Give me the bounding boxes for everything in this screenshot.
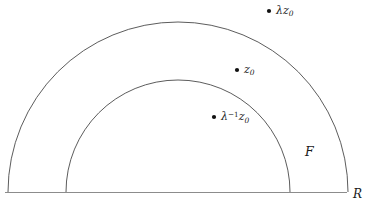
label-lambda-inverse-z0: λ−1z0: [221, 111, 249, 124]
axis-label-R: R: [353, 188, 362, 200]
figure-canvas: λz0 z0 λ−1z0 F R: [0, 0, 369, 211]
label-lambda-z0-sub: 0: [289, 9, 294, 18]
label-lambda-inverse-z0-exponent: −1: [228, 110, 239, 119]
region-label-F: F: [305, 146, 314, 159]
label-lambda-inverse-z0-sub: 0: [244, 116, 249, 125]
figure-svg: [0, 0, 369, 211]
label-lambda-z0-prefix: λ: [276, 4, 283, 17]
point-dot-lambda-inverse-z0: [212, 115, 216, 119]
label-lambda-z0: λz0: [276, 5, 294, 18]
point-dot-lambda-z0: [267, 9, 271, 13]
label-z0-sub: 0: [250, 68, 255, 77]
point-dot-z0: [235, 68, 239, 72]
inner-arc: [66, 80, 290, 192]
outer-arc: [8, 22, 348, 192]
label-lambda-inverse-z0-prefix: λ: [221, 110, 228, 123]
label-z0: z0: [244, 64, 255, 77]
